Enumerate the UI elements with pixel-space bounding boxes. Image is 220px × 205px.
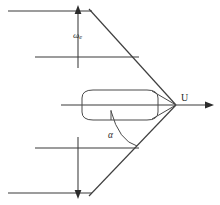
angle-alpha-arc <box>111 111 137 146</box>
lower-diagonal-line <box>89 105 176 196</box>
omega-e-label: ωe <box>73 30 82 40</box>
axis-arrow-head-icon <box>205 102 214 109</box>
figure-caption <box>14 196 214 205</box>
peripheral-velocity-label: U <box>181 92 188 103</box>
angle-alpha-label: α <box>108 130 113 140</box>
omega-subscript: e <box>79 33 82 40</box>
blade-upper-trailing-edge <box>152 91 176 105</box>
upper-arrow-head-icon <box>75 5 82 14</box>
velocity-triangle-figure: ωe U α <box>0 0 220 205</box>
